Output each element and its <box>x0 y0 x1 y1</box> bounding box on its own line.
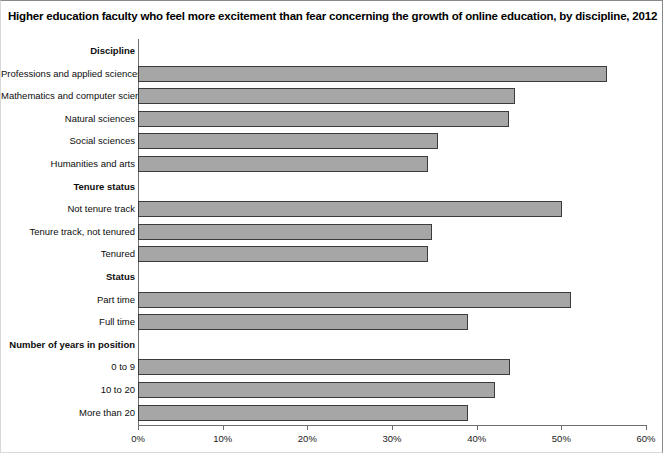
category-label: Not tenure track <box>1 203 135 214</box>
category-label: 10 to 20 <box>1 384 135 395</box>
category-label: Mathematics and computer science <box>1 90 135 101</box>
bar-row <box>138 201 646 217</box>
bar[interactable] <box>138 88 515 104</box>
bar[interactable] <box>138 314 468 330</box>
category-label: Natural sciences <box>1 113 135 124</box>
bar[interactable] <box>138 405 468 421</box>
bar-row <box>138 314 646 330</box>
category-label: Part time <box>1 294 135 305</box>
bar[interactable] <box>138 382 495 398</box>
x-axis-tick-label: 60% <box>636 433 655 444</box>
bar[interactable] <box>138 111 509 127</box>
category-label: 0 to 9 <box>1 361 135 372</box>
group-heading-label: Tenure status <box>1 181 135 192</box>
bar[interactable] <box>138 156 428 172</box>
bar[interactable] <box>138 359 510 375</box>
bar[interactable] <box>138 292 571 308</box>
bar[interactable] <box>138 224 432 240</box>
x-axis-tick <box>646 425 647 430</box>
bar-row <box>138 88 646 104</box>
group-heading-label: Discipline <box>1 45 135 56</box>
bar-row <box>138 292 646 308</box>
bar-row <box>138 111 646 127</box>
bar-row <box>138 224 646 240</box>
page-title: Higher education faculty who feel more e… <box>8 10 657 22</box>
x-axis-tick-label: 20% <box>298 433 317 444</box>
x-axis-tick-label: 40% <box>467 433 486 444</box>
category-label: Social sciences <box>1 135 135 146</box>
x-axis-tick-label: 30% <box>382 433 401 444</box>
x-axis-tick <box>392 425 393 430</box>
bar[interactable] <box>138 201 562 217</box>
x-axis-tick-label: 50% <box>552 433 571 444</box>
chart-page: Higher education faculty who feel more e… <box>0 0 663 453</box>
x-axis-tick-label: 10% <box>213 433 232 444</box>
x-axis-tick <box>477 425 478 430</box>
bar-row <box>138 246 646 262</box>
group-heading-label: Number of years in position <box>1 339 135 350</box>
category-label: Full time <box>1 316 135 327</box>
category-label-column: DisciplineProfessions and applied scienc… <box>1 39 135 425</box>
category-label: Professions and applied sciences <box>1 68 135 79</box>
bar-row <box>138 133 646 149</box>
bar[interactable] <box>138 133 438 149</box>
group-heading-label: Status <box>1 271 135 282</box>
category-label: Tenure track, not tenured <box>1 226 135 237</box>
bar[interactable] <box>138 246 428 262</box>
x-axis-tick-label: 0% <box>131 433 145 444</box>
bar-row <box>138 66 646 82</box>
category-label: Humanities and arts <box>1 158 135 169</box>
bar-row <box>138 359 646 375</box>
bar-row <box>138 382 646 398</box>
plot-area: 0%10%20%30%40%50%60% <box>138 39 646 425</box>
x-axis-tick <box>223 425 224 430</box>
x-axis-tick <box>307 425 308 430</box>
bar[interactable] <box>138 66 607 82</box>
category-label: Tenured <box>1 248 135 259</box>
bar-row <box>138 156 646 172</box>
x-axis-tick <box>138 425 139 430</box>
bar-row <box>138 405 646 421</box>
x-axis-tick <box>561 425 562 430</box>
category-label: More than 20 <box>1 407 135 418</box>
